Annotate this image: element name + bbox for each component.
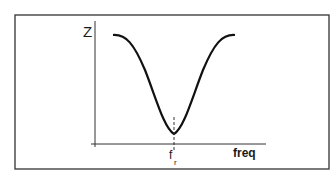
x-axis-label: freq	[233, 146, 256, 160]
y-axis-label: Z	[83, 23, 92, 40]
diagram-frame	[15, 15, 329, 169]
resonant-frequency-subscript: r	[174, 158, 177, 167]
impedance-diagram: Z freq f r	[0, 0, 336, 172]
